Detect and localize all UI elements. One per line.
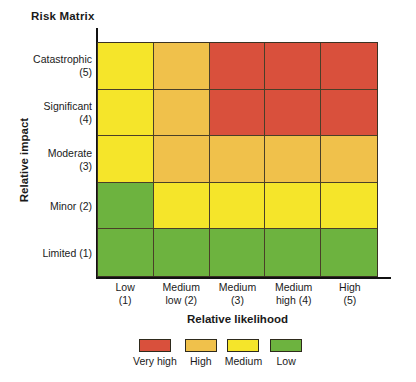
legend: Very highHighMediumLow — [133, 339, 302, 367]
y-tick-label-line2: (4) — [79, 113, 92, 126]
x-tick-label-line1: High — [322, 281, 378, 294]
matrix-cell-i4-l4[interactable] — [265, 90, 321, 137]
risk-matrix-grid — [97, 42, 378, 277]
matrix-cell-i1-l1[interactable] — [98, 229, 154, 276]
matrix-cell-i5-l3[interactable] — [210, 43, 266, 90]
matrix-cell-i4-l5[interactable] — [321, 90, 377, 137]
x-tick-label-2: Mediumlow (2) — [153, 281, 209, 307]
x-axis-line — [96, 277, 391, 279]
x-tick-label-4: Mediumhigh (4) — [266, 281, 322, 307]
matrix-cell-i4-l1[interactable] — [98, 90, 154, 137]
x-tick-label-line2: high (4) — [266, 294, 322, 307]
legend-label-very_high: Very high — [133, 355, 177, 367]
legend-swatch-high — [185, 339, 217, 352]
legend-swatch-very_high — [139, 339, 171, 352]
legend-item-medium[interactable]: Medium — [225, 339, 262, 367]
y-tick-label-line1: Limited (1) — [42, 247, 92, 260]
x-tick-label-line1: Low — [97, 281, 153, 294]
x-tick-label-line2: (5) — [322, 294, 378, 307]
page-title: Risk Matrix — [31, 10, 95, 22]
x-tick-label-3: Medium(3) — [209, 281, 265, 307]
x-tick-label-line1: Medium — [266, 281, 322, 294]
y-tick-label-line2: (3) — [79, 160, 92, 173]
legend-item-high[interactable]: High — [185, 339, 217, 367]
x-tick-label-5: High(5) — [322, 281, 378, 307]
matrix-cell-i5-l4[interactable] — [265, 43, 321, 90]
matrix-cell-i5-l1[interactable] — [98, 43, 154, 90]
matrix-cell-i4-l2[interactable] — [154, 90, 210, 137]
matrix-cell-i1-l4[interactable] — [265, 229, 321, 276]
matrix-cell-i3-l1[interactable] — [98, 136, 154, 183]
x-axis-tick-labels: Low(1)Mediumlow (2)Medium(3)Mediumhigh (… — [97, 281, 378, 307]
matrix-cell-i2-l3[interactable] — [210, 183, 266, 230]
y-tick-label-line1: Minor (2) — [50, 200, 92, 213]
matrix-cell-i3-l3[interactable] — [210, 136, 266, 183]
matrix-cell-i1-l3[interactable] — [210, 229, 266, 276]
x-axis-title: Relative likelihood — [97, 313, 378, 325]
matrix-cell-i3-l5[interactable] — [321, 136, 377, 183]
matrix-cell-i3-l2[interactable] — [154, 136, 210, 183]
matrix-cell-i2-l4[interactable] — [265, 183, 321, 230]
x-tick-label-line2: low (2) — [153, 294, 209, 307]
matrix-cell-i5-l2[interactable] — [154, 43, 210, 90]
x-tick-label-line1: Medium — [153, 281, 209, 294]
matrix-cell-i4-l3[interactable] — [210, 90, 266, 137]
x-tick-label-1: Low(1) — [97, 281, 153, 307]
matrix-cell-i1-l5[interactable] — [321, 229, 377, 276]
y-tick-label-line1: Catastrophic — [33, 53, 92, 66]
x-tick-label-line1: Medium — [209, 281, 265, 294]
matrix-cell-i2-l5[interactable] — [321, 183, 377, 230]
legend-label-low: Low — [277, 355, 296, 367]
y-tick-label-line2: (5) — [79, 66, 92, 79]
legend-swatch-low — [270, 339, 302, 352]
matrix-cell-i2-l2[interactable] — [154, 183, 210, 230]
y-tick-label-2: Minor (2) — [18, 183, 92, 230]
matrix-cell-i2-l1[interactable] — [98, 183, 154, 230]
y-axis-tick-labels: Catastrophic(5)Significant(4)Moderate(3)… — [18, 42, 92, 277]
y-tick-label-4: Significant(4) — [18, 89, 92, 136]
legend-swatch-medium — [227, 339, 259, 352]
y-tick-label-3: Moderate(3) — [18, 136, 92, 183]
y-tick-label-1: Limited (1) — [18, 230, 92, 277]
x-tick-label-line2: (3) — [209, 294, 265, 307]
y-tick-label-line1: Moderate — [48, 147, 92, 160]
matrix-cell-i3-l4[interactable] — [265, 136, 321, 183]
y-tick-label-5: Catastrophic(5) — [18, 42, 92, 89]
legend-label-medium: Medium — [225, 355, 262, 367]
legend-item-low[interactable]: Low — [270, 339, 302, 367]
x-tick-label-line2: (1) — [97, 294, 153, 307]
matrix-cell-i1-l2[interactable] — [154, 229, 210, 276]
legend-label-high: High — [190, 355, 212, 367]
matrix-cell-i5-l5[interactable] — [321, 43, 377, 90]
y-tick-label-line1: Significant — [44, 100, 92, 113]
legend-item-very_high[interactable]: Very high — [133, 339, 177, 367]
